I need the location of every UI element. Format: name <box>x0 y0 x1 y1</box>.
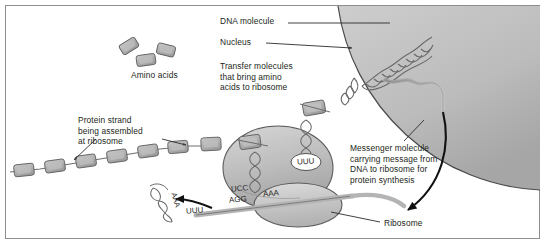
free-amino-acids <box>118 37 176 67</box>
label-ribosome: Ribosome <box>384 218 423 229</box>
label-dna-molecule: DNA molecule <box>220 16 274 27</box>
label-nucleus: Nucleus <box>220 37 251 48</box>
label-messenger-molecule: Messenger molecule carrying message from… <box>350 143 437 185</box>
protein-synthesis-diagram: DNA molecule Nucleus Transfer molecules … <box>0 0 547 246</box>
label-transfer-molecules: Transfer molecules that bring amino acid… <box>220 61 293 93</box>
codon-trna-left: UCC <box>231 184 249 193</box>
trna-released <box>150 184 172 222</box>
codon-mrna-1: AGG <box>229 195 247 205</box>
codon-trna-top: UUU <box>297 157 315 166</box>
label-amino-acids: Amino acids <box>131 70 178 81</box>
label-protein-strand: Protein strand being assembled at riboso… <box>78 115 143 147</box>
codon-mrna-2: AAA <box>263 189 280 198</box>
codon-mrna-3: UUU <box>186 206 204 215</box>
